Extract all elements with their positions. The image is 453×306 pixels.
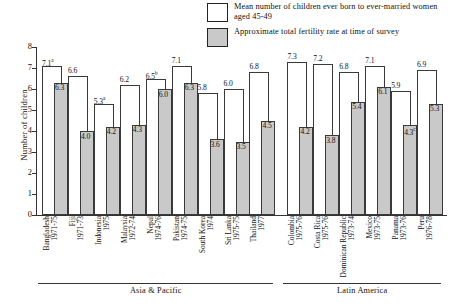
bar-fertility-rate [184,83,198,215]
category-years: 1974-75 [181,216,189,278]
y-tick-label: 8 [20,43,32,51]
category-years: 1975-76 [323,216,331,278]
bar-value-label-fertility-rate: 4.2 [300,128,309,136]
bar-value-label-fertility-rate: 6.0 [159,91,168,99]
bar-value-label-mean-children: 5.9 [391,82,400,90]
category-label: Dominican Republic1973-74 [340,216,356,278]
category-years: 1971-75 [51,216,59,278]
legend-label-mean-children: Mean number of children ever born to eve… [234,2,453,21]
bar-value-label-mean-children: 6.9 [417,61,426,69]
y-tick-label: 2 [20,169,32,177]
category-label: Fiji1971-73 [69,216,85,278]
category-label: Panama1973-76 [392,216,408,278]
bar-group: 6.03.5 [224,47,248,215]
bar-value-label-mean-children: 6.2 [120,76,129,84]
bar-value-label-mean-children: 7.1 [172,57,181,65]
bar-fertility-rate [261,121,275,216]
legend-swatch-empty-icon [207,3,228,22]
category-years: 1971-73 [77,216,85,278]
bar-fertility-rate [299,127,313,215]
category-years: 1974 [207,216,215,278]
group-label: Latin America [283,286,441,295]
category-years: 1974-76 [155,216,163,278]
y-tick-label: 0 [20,211,32,219]
bar-fertility-rate [210,139,224,215]
category-years: 1975-75 [233,216,241,278]
bar-value-label-fertility-rate: 6.1 [378,88,387,96]
category-label: Pakistan1974-75 [173,216,189,278]
y-tick-label: 3 [20,148,32,156]
bar-value-label-mean-children: 6.0 [224,80,233,88]
bar-value-label-fertility-rate: 3.8 [326,137,335,145]
category-label: Thailand1977 [250,216,266,278]
category-label: Sri Lanka1975-75 [225,216,241,278]
y-tick-label: 1 [20,190,32,198]
bar-value-label-fertility-rate: 4.3 [133,126,142,134]
category-label: Bangladesh1971-75 [43,216,59,278]
category-years: 1975 [103,216,111,278]
bar-value-label-fertility-rate: 4.2 [107,128,116,136]
category-years: 1973-76 [400,216,408,278]
bar-group: 5.94.3c [391,47,415,215]
category-years: 1977 [259,216,267,278]
bar-value-label-fertility-rate: 4.3c [404,126,415,136]
bar-fertility-rate [132,125,146,215]
category-years: 1975-76 [297,216,305,278]
bar-value-label-fertility-rate: 3.6 [211,141,220,149]
group-underline [38,283,273,284]
plot-area: 012345678 7.1a6.36.64.05.3a4.26.24.36.5b… [36,47,447,215]
legend-label-fertility-rate: Approximate total fertility rate at time… [234,27,399,37]
bar-group: 6.24.3 [120,47,144,215]
y-tick-label: 7 [20,64,32,72]
bar-value-label-mean-children: 7.1a [42,57,53,67]
bar-group: 6.5b6.0 [146,47,170,215]
bar-value-label-mean-children: 6.8 [249,63,258,71]
bar-fertility-rate [236,142,250,216]
bar-group: 7.34.2 [287,47,311,215]
bar-value-label-fertility-rate: 4.0 [81,133,90,141]
chart-legend: Mean number of children ever born to eve… [207,2,453,52]
group-underline [283,283,441,284]
legend-swatch-filled-icon [207,28,228,47]
bar-fertility-rate [54,83,68,215]
legend-item-fertility-rate: Approximate total fertility rate at time… [207,27,453,47]
category-label: Costa Rica1975-76 [314,216,330,278]
bar-value-label-mean-children: 6.6 [68,67,77,75]
bar-group: 7.16.3 [172,47,196,215]
bar-value-label-mean-children: 5.3a [94,95,105,105]
bar-group: 6.95.3 [417,47,441,215]
bar-fertility-rate [377,87,391,215]
bar-value-label-mean-children: 7.3 [287,53,296,61]
bar-series-container: 7.1a6.36.64.05.3a4.26.24.36.5b6.07.16.35… [36,47,447,215]
category-label: Colombia1975-76 [288,216,304,278]
bar-value-label-mean-children: 6.8 [339,63,348,71]
bar-group: 6.85.4 [339,47,363,215]
category-years: 1976-78 [426,216,434,278]
category-years: 1973-74 [348,216,356,278]
y-tick-label: 4 [20,127,32,135]
bar-fertility-rate [351,102,365,215]
category-label: Mexico1973-75 [366,216,382,278]
category-label: Nepal1974-76 [147,216,163,278]
bar-fertility-rate [325,135,339,215]
bar-group: 7.1a6.3 [42,47,66,215]
y-tick-label: 6 [20,85,32,93]
bar-value-label-fertility-rate: 6.3 [185,84,194,92]
bar-value-label-mean-children: 7.2 [313,55,322,63]
category-label: Peru1976-78 [418,216,434,278]
bar-group: 6.64.0 [68,47,92,215]
bar-fertility-rate [403,125,417,215]
bar-value-label-fertility-rate: 5.3 [430,105,439,113]
bar-fertility-rate [80,131,94,215]
bar-group: 7.16.1 [365,47,389,215]
bar-value-label-fertility-rate: 6.3 [55,84,64,92]
bar-group: 7.23.8 [313,47,337,215]
group-label: Asia & Pacific [38,286,273,295]
bar-value-label-mean-children: 7.1 [365,57,374,65]
bar-value-label-mean-children: 6.5b [146,70,158,80]
y-tick-label: 5 [20,106,32,114]
bar-fertility-rate [158,89,172,215]
category-years: 1972-74 [129,216,137,278]
bar-fertility-rate [106,127,120,215]
chart-figure: Mean number of children ever born to eve… [0,0,453,306]
